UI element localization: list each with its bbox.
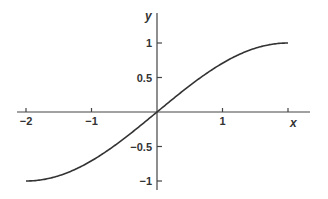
axes — [17, 13, 310, 190]
x-tick-label: 1 — [219, 115, 225, 127]
y-axis-label: y — [144, 9, 153, 23]
x-axis-label: x — [289, 116, 298, 130]
chart: −2−11 10.5−0.5−1 x y — [0, 0, 328, 199]
y-tick-label: 0.5 — [137, 72, 152, 84]
x-tick-label: −1 — [85, 115, 98, 127]
x-ticks: −2−11 — [20, 108, 288, 127]
y-tick-label: −0.5 — [130, 141, 152, 153]
y-tick-label: 1 — [146, 37, 152, 49]
x-tick-label: −2 — [20, 115, 33, 127]
y-tick-label: −1 — [139, 175, 152, 187]
